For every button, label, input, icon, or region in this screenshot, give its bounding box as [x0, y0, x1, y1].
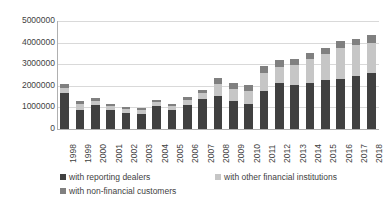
bar-segment[interactable]: [275, 67, 283, 83]
bar-segment[interactable]: [106, 110, 114, 129]
bar-stack: [244, 85, 252, 129]
bar-group[interactable]: [244, 21, 252, 129]
bar-segment[interactable]: [260, 91, 268, 129]
x-tick-label: 1998: [69, 144, 78, 163]
x-tick-label: 2007: [207, 144, 216, 163]
legend-item[interactable]: with non-financial customers: [60, 186, 176, 196]
bar-stack: [321, 48, 329, 129]
bar-segment[interactable]: [275, 83, 283, 129]
bar-group[interactable]: [91, 21, 99, 129]
bar-segment[interactable]: [306, 83, 314, 129]
bar-stack: [168, 104, 176, 129]
bar-group[interactable]: [198, 21, 206, 129]
bar-segment[interactable]: [367, 73, 375, 129]
legend-item[interactable]: with other financial institutions: [215, 172, 337, 182]
x-tick-label: 2012: [283, 144, 292, 163]
bar-segment[interactable]: [229, 89, 237, 101]
x-tick-label: 2014: [314, 144, 323, 163]
bar-segment[interactable]: [367, 35, 375, 42]
x-tick-label: 1999: [84, 144, 93, 163]
bar-group[interactable]: [352, 21, 360, 129]
bar-segment[interactable]: [91, 105, 99, 129]
legend-swatch-icon: [60, 188, 66, 194]
bar-group[interactable]: [106, 21, 114, 129]
bar-group[interactable]: [76, 21, 84, 129]
x-tick-label: 2002: [130, 144, 139, 163]
bar-segment[interactable]: [367, 43, 375, 73]
bar-segment[interactable]: [290, 65, 298, 85]
bar-stack: [352, 39, 360, 129]
bar-stack: [198, 90, 206, 129]
bar-group[interactable]: [336, 21, 344, 129]
x-tick-label: 2009: [237, 144, 246, 163]
bar-group[interactable]: [168, 21, 176, 129]
bar-stack: [183, 97, 191, 129]
bar-stack: [76, 101, 84, 129]
bar-segment[interactable]: [214, 96, 222, 129]
bar-segment[interactable]: [244, 91, 252, 104]
bar-segment[interactable]: [306, 59, 314, 83]
bar-segment[interactable]: [352, 39, 360, 46]
bar-group[interactable]: [60, 21, 68, 129]
bar-segment[interactable]: [244, 104, 252, 129]
x-tick-label: 2011: [268, 145, 277, 163]
bar-segment[interactable]: [122, 113, 130, 129]
x-tick-label: 2016: [345, 144, 354, 163]
bar-segment[interactable]: [352, 45, 360, 76]
bar-segment[interactable]: [290, 85, 298, 129]
bar-segment[interactable]: [260, 73, 268, 91]
bar-stack: [275, 60, 283, 129]
bar-group[interactable]: [275, 21, 283, 129]
bar-segment[interactable]: [137, 114, 145, 129]
bar-segment[interactable]: [183, 105, 191, 129]
x-tick-label: 2006: [191, 144, 200, 163]
bar-group[interactable]: [214, 21, 222, 129]
bar-segment[interactable]: [168, 110, 176, 129]
bar-stack: [137, 108, 145, 129]
x-tick-label: 2001: [115, 144, 124, 163]
bar-group[interactable]: [229, 21, 237, 129]
bar-stack: [122, 107, 130, 129]
y-tick-label: 4000000: [1, 38, 55, 47]
legend-swatch-icon: [60, 174, 66, 180]
bar-segment[interactable]: [198, 99, 206, 129]
x-tick-label: 2003: [145, 144, 154, 163]
y-tick-label: 2000000: [1, 81, 55, 90]
bar-segment[interactable]: [60, 93, 68, 129]
bar-stack: [152, 100, 160, 129]
bar-segment[interactable]: [260, 66, 268, 74]
bar-group[interactable]: [137, 21, 145, 129]
bar-segment[interactable]: [352, 76, 360, 129]
bar-group[interactable]: [122, 21, 130, 129]
bar-segment[interactable]: [321, 54, 329, 80]
legend-label: with non-financial customers: [69, 186, 176, 196]
bar-group[interactable]: [183, 21, 191, 129]
legend-swatch-icon: [215, 174, 221, 180]
bar-group[interactable]: [152, 21, 160, 129]
bar-group[interactable]: [321, 21, 329, 129]
bar-group[interactable]: [306, 21, 314, 129]
bar-group[interactable]: [260, 21, 268, 129]
y-axis-labels: 010000002000000300000040000005000000: [0, 0, 55, 213]
x-tick-label: 2018: [375, 144, 384, 163]
bar-segment[interactable]: [336, 79, 344, 129]
bar-stack: [336, 41, 344, 129]
bar-group[interactable]: [367, 21, 375, 129]
bar-segment[interactable]: [152, 106, 160, 129]
x-axis-line: [57, 129, 379, 130]
bar-segment[interactable]: [76, 110, 84, 129]
bar-stack: [214, 78, 222, 129]
bar-segment[interactable]: [214, 84, 222, 96]
bar-segment[interactable]: [275, 60, 283, 67]
bar-segment[interactable]: [229, 101, 237, 129]
y-tick-label: 1000000: [1, 102, 55, 111]
bar-stack: [60, 84, 68, 129]
bar-stack: [367, 35, 375, 129]
bar-stack: [229, 83, 237, 129]
bar-group[interactable]: [290, 21, 298, 129]
legend-item[interactable]: with reporting dealers: [60, 172, 150, 182]
bar-segment[interactable]: [321, 80, 329, 129]
y-tick-label: 5000000: [1, 16, 55, 25]
bar-segment[interactable]: [336, 48, 344, 79]
x-tick-label: 2008: [222, 144, 231, 163]
